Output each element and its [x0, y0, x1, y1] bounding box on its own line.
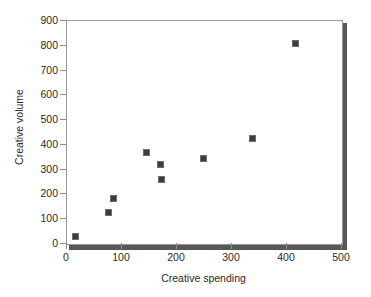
plot-frame-bottom-shadow: [69, 245, 346, 250]
data-point: [110, 195, 117, 202]
x-axis-tick-label: 400: [266, 252, 306, 263]
data-point: [157, 161, 164, 168]
y-axis-tick: [60, 94, 66, 95]
x-axis-tick: [176, 243, 177, 249]
x-axis-tick-label: 500: [321, 252, 361, 263]
data-point: [158, 176, 165, 183]
x-axis-tick: [341, 243, 342, 249]
data-point: [105, 209, 112, 216]
y-axis-tick: [60, 144, 66, 145]
x-axis-tick: [121, 243, 122, 249]
y-axis-tick-label: 800: [18, 40, 58, 51]
x-axis-tick-label: 0: [46, 252, 86, 263]
scatter-plot-figure: 0100200300400500600700800900 01002003004…: [0, 0, 371, 297]
x-axis-tick-label: 200: [156, 252, 196, 263]
x-axis-tick: [66, 243, 67, 249]
data-point: [72, 233, 79, 240]
y-axis-tick: [60, 70, 66, 71]
y-axis-tick: [60, 20, 66, 21]
data-point: [292, 40, 299, 47]
x-axis-title: Creative spending: [66, 272, 341, 284]
data-point: [143, 149, 150, 156]
data-point: [200, 155, 207, 162]
x-axis-tick-label: 300: [211, 252, 251, 263]
x-axis-tick: [286, 243, 287, 249]
y-axis-tick: [60, 119, 66, 120]
y-axis-tick: [60, 169, 66, 170]
x-axis-tick: [231, 243, 232, 249]
y-axis-tick: [60, 193, 66, 194]
y-axis-tick-label: 100: [18, 213, 58, 224]
x-axis-tick-label: 100: [101, 252, 141, 263]
y-axis-title: Creative volume: [13, 57, 25, 197]
y-axis-tick: [60, 218, 66, 219]
plot-area: [66, 20, 343, 245]
y-axis-tick-label: 900: [18, 15, 58, 26]
y-axis-tick: [60, 45, 66, 46]
data-point: [249, 135, 256, 142]
y-axis-tick-label: 0: [18, 238, 58, 249]
